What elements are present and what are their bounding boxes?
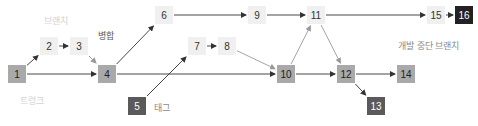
node-14: 14 bbox=[397, 65, 415, 83]
tag-label: 태그 bbox=[154, 101, 170, 114]
trunk-label: 트렁크 bbox=[20, 94, 44, 107]
node-6: 6 bbox=[155, 6, 173, 24]
node-15: 15 bbox=[427, 6, 445, 24]
node-10: 10 bbox=[277, 65, 295, 83]
node-7: 7 bbox=[188, 37, 206, 55]
merge-label: 병합 bbox=[98, 29, 114, 42]
node-8: 8 bbox=[218, 37, 236, 55]
dead-branch-label: 개발 중단 브랜치 bbox=[398, 39, 459, 52]
node-12: 12 bbox=[337, 65, 355, 83]
node-3: 3 bbox=[70, 37, 88, 55]
node-4: 4 bbox=[98, 65, 116, 83]
node-11: 11 bbox=[307, 6, 325, 24]
edge-1-2 bbox=[27, 56, 38, 66]
node-2: 2 bbox=[40, 37, 58, 55]
edge-8-10 bbox=[237, 51, 275, 69]
node-16: 16 bbox=[455, 6, 473, 24]
edge-4-6 bbox=[117, 26, 154, 64]
edge-11-12 bbox=[321, 25, 340, 63]
edges-layer bbox=[0, 0, 478, 126]
node-13: 13 bbox=[367, 97, 385, 115]
node-1: 1 bbox=[8, 65, 26, 83]
edge-12-13 bbox=[355, 84, 365, 95]
edge-10-11 bbox=[291, 26, 310, 64]
node-5: 5 bbox=[128, 97, 146, 115]
branch-diagram: 12345678910111213141516 브랜치 병합 트렁크 태그 개발… bbox=[0, 0, 478, 126]
branch-label: 브랜치 bbox=[44, 14, 68, 27]
edge-5-7 bbox=[147, 57, 186, 96]
node-9: 9 bbox=[248, 6, 266, 24]
edge-3-4 bbox=[89, 56, 96, 63]
